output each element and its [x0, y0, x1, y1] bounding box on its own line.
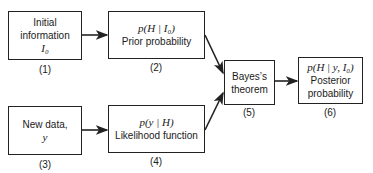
node-1-math: I₀ [41, 42, 49, 55]
node-bayes-theorem: Bayes’s theorem [224, 60, 275, 105]
node-5-line-2: theorem [231, 83, 268, 96]
node-posterior-probability: p(H | y, I₀) Posterior probability [298, 57, 363, 104]
node-5-number: (5) [229, 107, 269, 118]
node-2-math: p(H | I₀) [138, 22, 175, 35]
node-3-line-1: New data, [22, 118, 67, 131]
node-prior-probability: p(H | I₀) Prior probability [108, 11, 205, 59]
node-6-line-1: Posterior [310, 74, 350, 87]
node-3-number: (3) [25, 159, 65, 170]
node-initial-information: Initial information I₀ [8, 11, 82, 60]
node-1-number: (1) [25, 64, 65, 75]
arrow-4-to-5 [205, 93, 223, 130]
node-likelihood-function: p(y | H) Likelihood function [108, 105, 205, 153]
node-4-math: p(y | H) [139, 116, 173, 129]
node-4-line-1: Likelihood function [115, 129, 198, 142]
node-4-number: (4) [136, 156, 176, 167]
node-new-data: New data, y [8, 106, 82, 155]
node-3-math: y [43, 131, 48, 144]
node-5-line-1: Bayes’s [232, 70, 267, 83]
node-2-line-1: Prior probability [122, 35, 191, 48]
node-6-number: (6) [310, 107, 350, 118]
node-6-line-2: probability [308, 87, 354, 100]
arrow-2-to-5 [205, 35, 223, 73]
node-6-math: p(H | y, I₀) [307, 61, 354, 74]
node-1-line-2: information [20, 29, 69, 42]
node-2-number: (2) [136, 62, 176, 73]
node-1-line-1: Initial [33, 16, 56, 29]
